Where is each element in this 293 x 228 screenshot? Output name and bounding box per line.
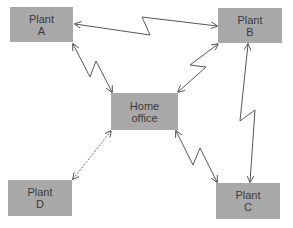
node-label-line2: B — [246, 26, 253, 38]
node-label-line2: office — [131, 112, 157, 124]
node-label-line2: D — [36, 198, 44, 210]
node-label-line1: Home — [130, 100, 159, 112]
node-plant-c: Plant C — [216, 183, 280, 219]
node-label-line1: Plant — [237, 14, 262, 26]
node-label-line2: C — [244, 201, 252, 213]
node-label-line1: Plant — [27, 186, 52, 198]
node-label-line2: A — [38, 25, 45, 37]
link-plant-b-plant-c — [240, 44, 255, 182]
node-home-office: Home office — [111, 93, 178, 130]
link-home-office-plant-b — [178, 44, 218, 92]
node-plant-b: Plant B — [218, 8, 282, 43]
node-plant-a: Plant A — [10, 7, 73, 42]
node-plant-d: Plant D — [8, 180, 72, 216]
link-home-office-plant-c — [176, 131, 217, 182]
node-label-line1: Plant — [235, 189, 260, 201]
link-plant-a-plant-b — [75, 17, 217, 35]
link-home-office-plant-d — [73, 131, 111, 179]
link-plant-a-home-office — [73, 44, 112, 92]
node-label-line1: Plant — [29, 13, 54, 25]
